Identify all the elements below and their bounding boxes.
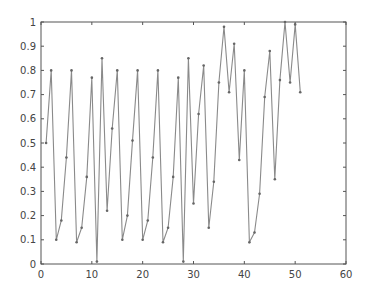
y-tick-label: 0 xyxy=(30,259,36,270)
data-point-marker xyxy=(248,241,251,244)
data-point-marker xyxy=(70,69,73,72)
data-point-marker xyxy=(152,156,155,159)
axis-ticks xyxy=(41,22,346,264)
plot-frame xyxy=(41,22,346,264)
data-point-marker xyxy=(213,180,216,183)
y-tick-label: 0.8 xyxy=(20,65,36,76)
data-point-marker xyxy=(85,176,88,179)
data-point-marker xyxy=(274,178,277,181)
data-point-marker xyxy=(167,226,170,229)
y-tick-label: 0.3 xyxy=(20,186,36,197)
data-point-marker xyxy=(131,139,134,142)
data-point-marker xyxy=(177,76,180,79)
data-point-marker xyxy=(80,226,83,229)
data-point-marker xyxy=(263,96,266,99)
data-point-marker xyxy=(111,127,114,130)
data-series xyxy=(45,21,302,263)
data-point-marker xyxy=(172,176,175,179)
plot-border xyxy=(41,22,346,264)
data-point-marker xyxy=(126,214,129,217)
data-point-marker xyxy=(91,76,94,79)
data-point-marker xyxy=(182,260,185,263)
data-point-marker xyxy=(238,159,241,162)
data-point-marker xyxy=(258,193,261,196)
data-point-marker xyxy=(75,241,78,244)
data-point-marker xyxy=(294,23,297,26)
y-tick-label: 1 xyxy=(30,17,36,28)
data-point-marker xyxy=(116,69,119,72)
data-point-marker xyxy=(157,69,160,72)
data-point-marker xyxy=(228,91,231,94)
data-point-marker xyxy=(136,69,139,72)
data-point-marker xyxy=(253,231,256,234)
series-line xyxy=(46,22,300,262)
y-tick-label: 0.1 xyxy=(20,234,36,245)
data-point-marker xyxy=(279,79,282,82)
data-point-marker xyxy=(101,57,104,60)
y-tick-label: 0.9 xyxy=(20,41,36,52)
data-point-marker xyxy=(65,156,68,159)
data-point-marker xyxy=(207,226,210,229)
data-point-marker xyxy=(60,219,63,222)
x-tick-label: 0 xyxy=(38,269,44,280)
data-point-marker xyxy=(202,64,205,67)
data-point-marker xyxy=(223,26,226,29)
data-point-marker xyxy=(162,241,165,244)
y-tick-label: 0.2 xyxy=(20,210,36,221)
x-tick-label: 30 xyxy=(187,269,200,280)
data-point-marker xyxy=(187,57,190,60)
line-chart: 010203040506000.10.20.30.40.50.60.70.80.… xyxy=(0,0,370,292)
data-point-marker xyxy=(268,50,271,53)
data-point-marker xyxy=(106,209,109,212)
y-tick-label: 0.7 xyxy=(20,89,36,100)
data-point-marker xyxy=(197,113,200,116)
data-point-marker xyxy=(233,42,236,45)
data-point-marker xyxy=(146,219,149,222)
data-point-marker xyxy=(243,69,246,72)
y-tick-label: 0.4 xyxy=(20,162,36,173)
data-point-marker xyxy=(50,69,53,72)
data-point-marker xyxy=(218,81,221,84)
x-tick-label: 60 xyxy=(340,269,353,280)
data-point-marker xyxy=(289,81,292,84)
y-tick-label: 0.6 xyxy=(20,113,36,124)
x-tick-label: 20 xyxy=(136,269,149,280)
data-point-marker xyxy=(55,239,58,242)
x-tick-label: 10 xyxy=(85,269,98,280)
data-point-marker xyxy=(45,142,48,145)
data-point-marker xyxy=(192,202,195,205)
x-tick-label: 50 xyxy=(289,269,302,280)
x-tick-label: 40 xyxy=(238,269,251,280)
data-point-marker xyxy=(121,239,124,242)
data-point-marker xyxy=(141,239,144,242)
y-tick-label: 0.5 xyxy=(20,138,36,149)
data-point-marker xyxy=(96,260,99,263)
data-point-marker xyxy=(284,21,287,24)
data-point-marker xyxy=(299,91,302,94)
